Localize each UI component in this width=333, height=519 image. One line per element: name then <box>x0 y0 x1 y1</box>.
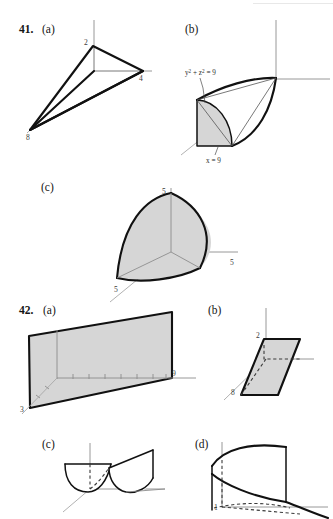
vertex-label-1-42d: 1 <box>214 503 218 512</box>
parallelogram-42b <box>241 339 300 395</box>
equation-label-x9-41b: x = 9 <box>206 157 221 165</box>
tetra-front-face-41a <box>30 46 143 130</box>
figure-41c: 5 5 5 <box>90 180 270 310</box>
vertex-label-3-42a: 3 <box>20 405 24 414</box>
figure-page: 41. (a) 2 4 8 (b) <box>0 0 333 519</box>
vertex-label-4-41a: 4 <box>139 74 143 83</box>
vertex-label-5-z-41c: 5 <box>162 187 166 196</box>
vertex-label-5-x-41c: 5 <box>114 285 118 294</box>
vertex-label-2-42b: 2 <box>256 331 260 340</box>
vertex-label-8-41a: 8 <box>26 133 30 142</box>
figure-42b: 2 8 <box>210 300 333 420</box>
vertex-label-8-42b: 8 <box>231 388 235 397</box>
figure-42d: 1 <box>190 430 333 519</box>
hidden-base-line-42d <box>222 507 300 514</box>
leader-line-x9-41b <box>215 147 218 155</box>
figure-41b: y2 + z2 = 9 x = 9 <box>160 0 333 172</box>
vertex-label-5-y-41c: 5 <box>230 258 234 267</box>
figure-42a: 9 3 <box>0 300 215 420</box>
figure-41a: 2 4 8 <box>0 0 170 160</box>
vertex-label-2-41a: 2 <box>84 38 88 47</box>
trough-left-body-42c <box>65 464 111 492</box>
vertex-label-9-42a: 9 <box>172 369 176 378</box>
sheet-bottom-curve-ext-42d <box>286 502 328 518</box>
part-label-41c: (c) <box>41 181 54 193</box>
figure-42c <box>40 430 190 519</box>
equation-label-circle-41b: y2 + z2 = 9 <box>185 68 216 77</box>
